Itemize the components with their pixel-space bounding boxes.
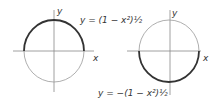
left-equation: y = (1 − x²)½ <box>80 16 142 25</box>
right-equation: y = −(1 − x²)½ <box>98 89 168 98</box>
right-x-axis-label: x <box>203 54 208 63</box>
right-lower-semicircle <box>139 51 199 82</box>
left-x-axis-label: x <box>93 54 98 63</box>
left-y-axis-label: y <box>57 7 62 16</box>
right-upper-semicircle <box>139 20 199 51</box>
right-y-axis-label: y <box>172 9 177 18</box>
